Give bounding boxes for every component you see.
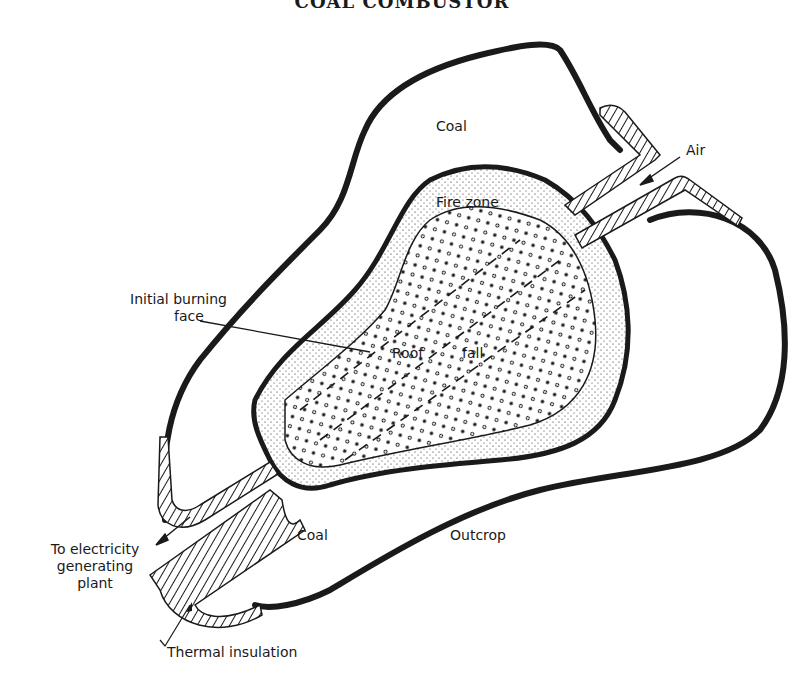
label-electricity-line2: generating: [30, 558, 160, 575]
label-air: Air: [686, 142, 705, 159]
label-fall: fall: [462, 345, 483, 362]
label-coal-upper: Coal: [436, 118, 467, 135]
label-fire-zone: Fire zone: [436, 194, 499, 211]
label-thermal-insulation: Thermal insulation: [167, 644, 297, 661]
label-initial-burning-face: Initial burning face: [130, 291, 227, 325]
label-roof: Roof: [392, 345, 423, 362]
label-initial-burning-line2: face: [174, 308, 227, 325]
label-electricity-line3: plant: [30, 575, 160, 592]
label-electricity-plant: To electricity generating plant: [30, 541, 160, 592]
label-initial-burning-line1: Initial burning: [130, 291, 227, 308]
label-coal-lower: Coal: [297, 527, 328, 544]
label-outcrop: Outcrop: [450, 527, 506, 544]
label-electricity-line1: To electricity: [30, 541, 160, 558]
